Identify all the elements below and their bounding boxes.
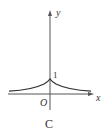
y-axis-arrow-icon <box>48 10 52 16</box>
peak-value-label: 1 <box>53 70 58 80</box>
y-axis-label: y <box>55 7 61 18</box>
figure-caption: C <box>45 117 53 131</box>
x-axis-arrow-icon <box>88 92 94 96</box>
x-axis-label: x <box>95 92 101 103</box>
graph-figure: y x O 1 C <box>0 0 111 133</box>
origin-label: O <box>40 97 47 108</box>
x-axis <box>8 92 94 96</box>
y-axis <box>48 10 52 110</box>
